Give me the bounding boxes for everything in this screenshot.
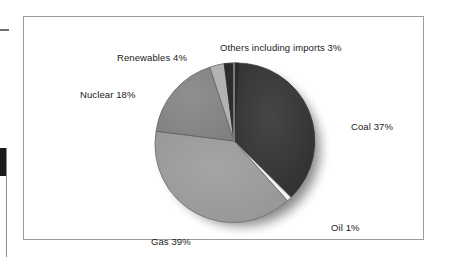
figure-frame: Others including imports 3% Renewables 4… [23, 16, 424, 240]
scan-edge-rule-icon [6, 148, 7, 257]
pie-label-others: Others including imports 3% [220, 42, 342, 53]
pie-label-coal: Coal 37% [351, 121, 393, 132]
pie-chart: Others including imports 3% Renewables 4… [24, 17, 423, 239]
pie-label-nuclear: Nuclear 18% [80, 89, 136, 100]
scan-edge-dash-icon [0, 29, 9, 31]
pie-label-renewables: Renewables 4% [117, 52, 187, 63]
screenshot-page: Others including imports 3% Renewables 4… [0, 0, 460, 257]
pie-label-gas: Gas 39% [151, 236, 191, 247]
pie-label-oil: Oil 1% [331, 222, 360, 233]
